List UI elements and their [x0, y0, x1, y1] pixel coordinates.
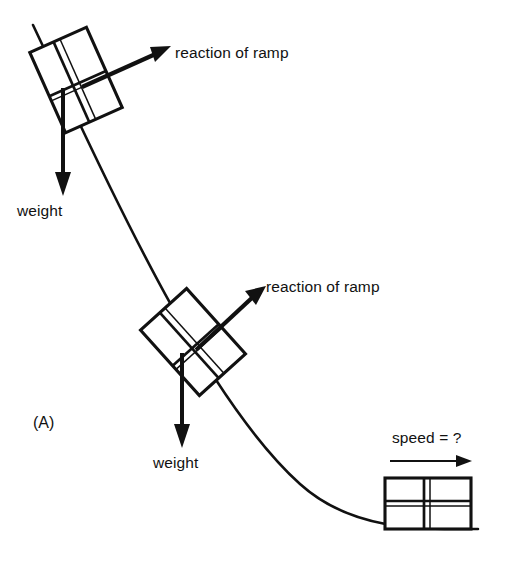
label-weight-top: weight: [16, 202, 63, 219]
vector-reaction-top-arrowhead: [150, 46, 171, 62]
vector-speed-arrowhead: [456, 455, 472, 467]
label-reaction-of-ramp-middle: reaction of ramp: [266, 278, 380, 295]
label-weight-middle: weight: [152, 454, 199, 471]
panel-label: (A): [33, 414, 54, 431]
block-bottom-body: [385, 478, 471, 529]
vector-weight-middle-arrowhead: [174, 424, 190, 448]
label-speed-question: speed = ?: [392, 429, 462, 446]
vector-weight-top-arrowhead: [55, 172, 71, 196]
block-top: [30, 27, 122, 133]
physics-diagram-canvas: reaction of ramp weight reaction of ramp…: [0, 0, 510, 567]
block-middle-body: [141, 289, 246, 396]
vector-speed: [390, 455, 472, 467]
diagram-svg: reaction of ramp weight reaction of ramp…: [0, 0, 510, 567]
block-middle: [141, 289, 246, 396]
block-top-body: [30, 27, 122, 133]
label-reaction-of-ramp-top: reaction of ramp: [175, 44, 289, 61]
block-bottom: [385, 478, 471, 529]
